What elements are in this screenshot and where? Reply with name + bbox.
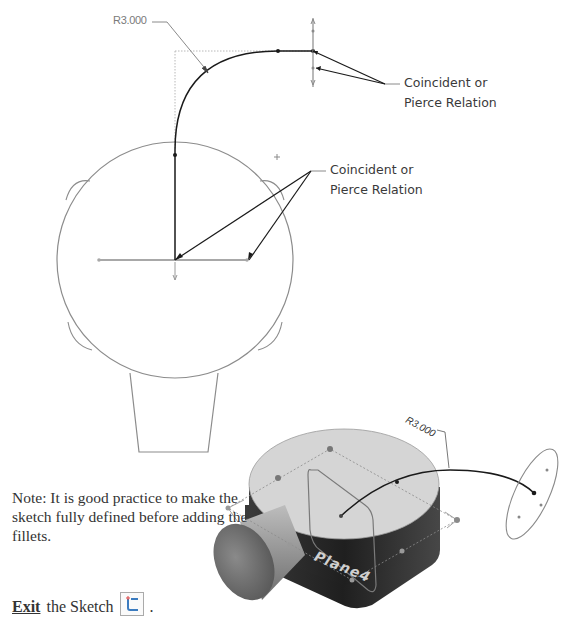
- practice-note: Note: It is good practice to make the sk…: [12, 488, 252, 545]
- exit-sketch-icon[interactable]: [120, 592, 144, 616]
- exit-trailing-period: .: [150, 598, 154, 616]
- exit-instruction-text: the Sketch: [46, 598, 113, 616]
- exit-instruction: Exit the Sketch .: [12, 595, 154, 619]
- exit-link[interactable]: Exit: [12, 598, 40, 616]
